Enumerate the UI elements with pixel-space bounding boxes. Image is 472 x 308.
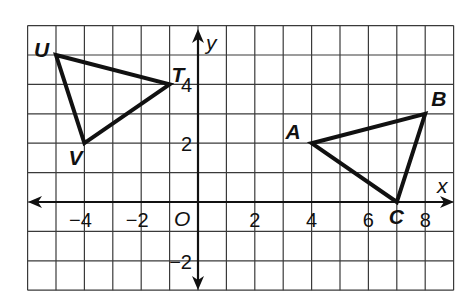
y-tick-label: −2 [169, 251, 192, 273]
vertex-label-b: B [431, 87, 446, 110]
origin-label: O [174, 207, 190, 230]
x-axis-label: x [436, 174, 449, 197]
x-tick-label: −4 [69, 209, 92, 231]
y-axis-label: y [204, 31, 218, 54]
vertex-label-v: V [68, 146, 84, 169]
vertex-label-u: U [34, 38, 50, 61]
x-tick-label: 4 [306, 209, 317, 231]
y-tick-label: 2 [181, 133, 192, 155]
axes [28, 29, 454, 290]
vertex-label-c: C [389, 205, 405, 228]
x-tick-label: 8 [420, 209, 431, 231]
triangles [56, 55, 425, 202]
vertex-label-a: A [285, 120, 301, 143]
x-tick-label: 6 [363, 209, 374, 231]
coordinate-plane: x y O −4−2246842−2UTVABC [0, 0, 472, 308]
x-tick-label: −2 [126, 209, 149, 231]
x-tick-label: 2 [249, 209, 260, 231]
vertex-label-t: T [172, 63, 187, 86]
